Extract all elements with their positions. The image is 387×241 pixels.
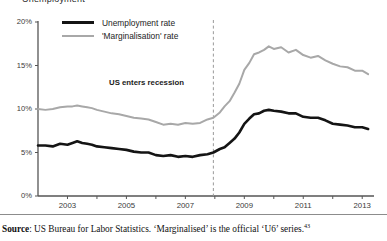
source-text: : US Bureau for Labor Statistics. ‘Margi…: [29, 224, 304, 234]
legend-label-marginalisation: 'Marginalisation' rate: [102, 31, 178, 41]
y-axis-label: 15%: [2, 61, 32, 70]
x-axis-label: 2005: [109, 201, 143, 210]
legend-swatch-marginalisation: [62, 35, 94, 37]
figure-unemployment-chart: Unemployment Unemployment rate 'Marginal…: [0, 0, 387, 241]
x-axis-label: 2009: [227, 201, 261, 210]
legend-swatch-unemployment: [62, 21, 94, 24]
legend-item-marginalisation: 'Marginalisation' rate: [62, 30, 178, 41]
recession-annotation-label: US enters recession: [109, 78, 184, 87]
legend-label-unemployment: Unemployment rate: [102, 18, 175, 28]
y-axis-label: 0%: [2, 191, 32, 200]
y-axis-label: 20%: [2, 17, 32, 26]
plot-area: [0, 0, 387, 212]
source-caption: Source: US Bureau for Labor Statistics. …: [2, 222, 310, 234]
x-axis-label: 2011: [286, 201, 320, 210]
chart-svg: [0, 0, 387, 212]
y-axis-label: 10%: [2, 104, 32, 113]
chart-legend: Unemployment rate 'Marginalisation' rate: [62, 17, 178, 43]
caption-divider: [0, 214, 387, 215]
y-axis-label: 5%: [2, 148, 32, 157]
x-axis-label: 2003: [50, 201, 84, 210]
source-prefix: Source: [2, 224, 29, 234]
x-axis-label: 2007: [168, 201, 202, 210]
x-axis-label: 2013: [345, 201, 379, 210]
legend-item-unemployment: Unemployment rate: [62, 17, 178, 28]
source-footnote: 43: [304, 222, 310, 229]
